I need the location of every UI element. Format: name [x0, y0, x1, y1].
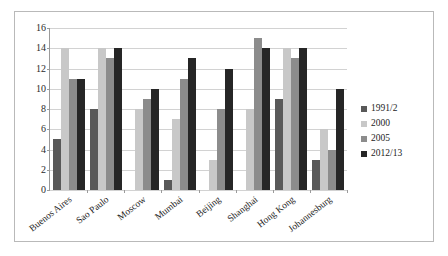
bar-group-bars	[202, 28, 232, 190]
bar[interactable]	[188, 58, 196, 190]
x-axis-label-cell: Johannesburg	[310, 191, 347, 247]
x-axis-labels: Buenos AiresSao PauloMoscowMumbaiBeijing…	[49, 191, 347, 247]
bar[interactable]	[209, 160, 217, 190]
x-axis-tick-mark	[347, 190, 348, 193]
bar[interactable]	[106, 58, 114, 190]
bar[interactable]	[336, 89, 344, 190]
legend-item-label: 2005	[371, 134, 390, 144]
x-axis-label-cell: Moscow	[124, 191, 161, 247]
bar[interactable]	[61, 48, 69, 190]
bar[interactable]	[53, 139, 61, 190]
bar-group-bars	[276, 28, 306, 190]
legend-swatch-icon	[361, 151, 367, 157]
bar[interactable]	[254, 38, 262, 190]
bar-group-bars	[91, 28, 121, 190]
bar-group	[124, 28, 161, 190]
bar[interactable]	[275, 99, 283, 190]
bar[interactable]	[143, 99, 151, 190]
bar[interactable]	[151, 89, 159, 190]
legend-swatch-icon	[361, 121, 367, 127]
bar-group-bars	[314, 28, 344, 190]
y-axis-tick-label: 2	[41, 165, 46, 175]
y-axis-tick-label: 0	[41, 185, 46, 195]
bar-group	[87, 28, 124, 190]
bar[interactable]	[320, 129, 328, 190]
chart-frame: 0246810121416 Buenos AiresSao PauloMosco…	[14, 11, 434, 242]
x-axis-label-cell: Mumbai	[161, 191, 198, 247]
bar-group	[50, 28, 87, 190]
legend-item-label: 1991/2	[371, 104, 397, 114]
x-axis-label-cell: Sao Paulo	[86, 191, 123, 247]
bar-group	[236, 28, 273, 190]
bar[interactable]	[246, 109, 254, 190]
bar[interactable]	[291, 58, 299, 190]
bar-group	[199, 28, 236, 190]
bar[interactable]	[69, 79, 77, 190]
x-axis-label: Buenos Aires	[27, 195, 73, 234]
bar-group-bars	[128, 28, 158, 190]
bar-group-bars	[54, 28, 84, 190]
legend-item-label: 2000	[371, 119, 390, 129]
bar-group-bars	[165, 28, 195, 190]
bar[interactable]	[312, 160, 320, 190]
legend-item[interactable]: 2000	[361, 116, 435, 131]
bar[interactable]	[90, 109, 98, 190]
bar-group	[310, 28, 347, 190]
legend-swatch-icon	[361, 106, 367, 112]
bar[interactable]	[135, 109, 143, 190]
bar[interactable]	[77, 79, 85, 190]
bar[interactable]	[217, 109, 225, 190]
y-axis-tick-label: 8	[41, 104, 46, 114]
bar-group	[161, 28, 198, 190]
legend-item[interactable]: 1991/2	[361, 101, 435, 116]
bar[interactable]	[180, 79, 188, 190]
bars-layer	[50, 28, 347, 190]
bar[interactable]	[114, 48, 122, 190]
y-axis-tick-label: 12	[36, 64, 46, 74]
bar[interactable]	[299, 48, 307, 190]
bar[interactable]	[172, 119, 180, 190]
bar[interactable]	[262, 48, 270, 190]
y-axis-tick-label: 16	[36, 23, 46, 33]
bar[interactable]	[98, 48, 106, 190]
bar-group	[273, 28, 310, 190]
x-axis-label: Beijing	[195, 195, 223, 220]
bar[interactable]	[225, 69, 233, 191]
legend-swatch-icon	[361, 136, 367, 142]
legend: 1991/2200020052012/13	[361, 101, 435, 161]
legend-item-label: 2012/13	[371, 149, 402, 159]
bar-group-bars	[239, 28, 269, 190]
y-axis-tick-label: 4	[41, 145, 46, 155]
plot-area: 0246810121416	[49, 28, 347, 191]
y-axis-tick-label: 6	[41, 124, 46, 134]
legend-item[interactable]: 2012/13	[361, 146, 435, 161]
y-axis-tick-label: 10	[36, 84, 46, 94]
bar[interactable]	[283, 48, 291, 190]
y-axis-tick-label: 14	[36, 43, 46, 53]
legend-item[interactable]: 2005	[361, 131, 435, 146]
bar[interactable]	[328, 150, 336, 191]
bar[interactable]	[164, 180, 172, 190]
